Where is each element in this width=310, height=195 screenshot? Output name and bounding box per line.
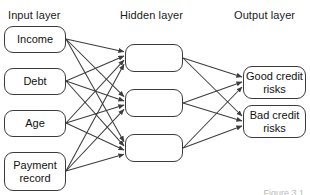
connection-edge <box>183 58 242 116</box>
connection-edge <box>66 39 124 52</box>
output-node-bad-credit-risks: Bad credit risks <box>243 105 306 138</box>
hidden-node-3 <box>125 134 183 162</box>
input-node-payment-record: Payment record <box>4 152 66 191</box>
input-node-debt-label: Debt <box>23 75 46 88</box>
neural-network-diagram: Input layer Hidden layer Output layer In… <box>0 0 310 195</box>
connection-edge <box>183 87 242 148</box>
edges-input-to-hidden <box>66 39 124 171</box>
input-node-age-label: Age <box>25 117 45 130</box>
connection-edge <box>66 39 124 97</box>
connection-edge <box>183 103 242 121</box>
output-node-good-credit-risks-label: Good credit risks <box>244 70 305 95</box>
connection-edge <box>183 58 242 77</box>
edges-hidden-to-output <box>183 58 242 148</box>
hidden-node-1 <box>125 44 183 72</box>
input-node-income-label: Income <box>17 33 53 46</box>
output-node-bad-credit-risks-label: Bad credit risks <box>244 109 305 134</box>
input-node-payment-record-label: Payment record <box>5 159 65 184</box>
connection-edge <box>183 82 242 103</box>
connection-edge <box>66 56 124 81</box>
input-node-age: Age <box>4 110 66 137</box>
connection-edge <box>66 154 124 171</box>
input-node-debt: Debt <box>4 68 66 95</box>
connection-edge <box>66 64 124 171</box>
hidden-node-2 <box>125 89 183 117</box>
output-node-good-credit-risks: Good credit risks <box>243 66 306 99</box>
input-node-income: Income <box>4 26 66 53</box>
connection-edge <box>183 126 242 148</box>
